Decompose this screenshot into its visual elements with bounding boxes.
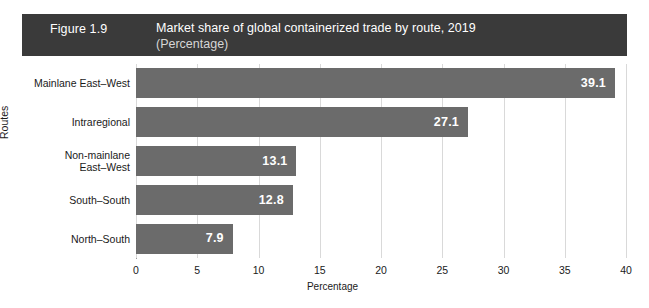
- y-axis-category-label-line: East–West: [18, 161, 130, 173]
- y-axis-category-label-line: North–South: [18, 233, 130, 245]
- y-axis-title: Routes: [0, 106, 10, 139]
- y-axis-category-label: Non-mainlaneEast–West: [18, 149, 130, 173]
- bar-row: 39.1: [136, 68, 615, 98]
- y-axis-category-label: North–South: [18, 233, 130, 245]
- bar-value-label: 27.1: [434, 116, 459, 129]
- x-axis-title-text: Percentage: [307, 281, 358, 292]
- bar-row: 27.1: [136, 107, 468, 137]
- x-axis-tick-30: 30: [489, 264, 519, 276]
- x-axis-title: Percentage: [0, 281, 649, 292]
- bar-value-label: 13.1: [262, 155, 287, 168]
- figure-title: Market share of global containerized tra…: [156, 21, 476, 35]
- figure-number: Figure 1.9: [50, 22, 107, 36]
- y-axis-category-label-line: Intraregional: [18, 116, 130, 128]
- x-axis-tick-40: 40: [611, 264, 641, 276]
- bar[interactable]: 7.9: [136, 224, 233, 254]
- y-axis-category-labels: Mainlane East–WestIntraregionalNon-mainl…: [18, 64, 130, 258]
- figure-subtitle: (Percentage): [156, 37, 228, 51]
- y-axis-category-label: South–South: [18, 194, 130, 206]
- bar-value-label: 39.1: [581, 77, 606, 90]
- bar-row: 12.8: [136, 185, 293, 215]
- x-axis-tick-25: 25: [427, 264, 457, 276]
- bar-value-label: 12.8: [259, 194, 284, 207]
- x-axis-tick-35: 35: [550, 264, 580, 276]
- bar[interactable]: 39.1: [136, 68, 615, 98]
- y-axis-category-label-line: Mainlane East–West: [18, 77, 130, 89]
- y-axis-category-label: Mainlane East–West: [18, 77, 130, 89]
- chart-plot-area: 39.127.113.112.87.9: [136, 64, 626, 258]
- x-axis-tick-15: 15: [305, 264, 335, 276]
- x-axis-tick-0: 0: [121, 264, 151, 276]
- figure-header-band: Figure 1.9 Market share of global contai…: [22, 14, 627, 56]
- bar[interactable]: 27.1: [136, 107, 468, 137]
- y-axis-category-label-line: Non-mainlane: [18, 149, 130, 161]
- bar[interactable]: 13.1: [136, 146, 296, 176]
- bar-row: 13.1: [136, 146, 296, 176]
- y-axis-category-label: Intraregional: [18, 116, 130, 128]
- bar-row: 7.9: [136, 224, 233, 254]
- bar[interactable]: 12.8: [136, 185, 293, 215]
- x-axis-tick-10: 10: [244, 264, 274, 276]
- y-axis-category-label-line: South–South: [18, 194, 130, 206]
- x-axis-tick-5: 5: [182, 264, 212, 276]
- gridline-40: [626, 64, 627, 258]
- x-axis-tick-20: 20: [366, 264, 396, 276]
- bar-value-label: 7.9: [206, 232, 224, 245]
